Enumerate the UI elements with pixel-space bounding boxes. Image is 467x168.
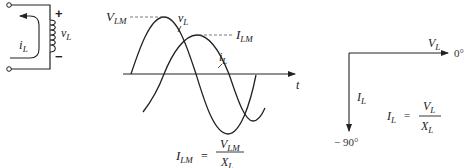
voltage-curve-label: vL [178, 11, 188, 27]
circuit-current-label: iL [19, 37, 28, 54]
minus-sign: − [55, 49, 63, 64]
current-angle-label: − 90° [334, 136, 358, 148]
waveform-plot: t VLM ILM vL iL ILM = VLM XL [106, 9, 300, 168]
current-curve-label: iL [219, 50, 227, 66]
plus-sign: + [55, 6, 63, 21]
svg-text:ILM: ILM [175, 148, 193, 165]
time-axis-label: t [296, 78, 300, 92]
svg-text:IL: IL [386, 109, 396, 125]
inductor-circuit: iL vL + − [7, 3, 72, 72]
inductor-ac-diagram: iL vL + − t VLM ILM vL iL ILM = VLM XL [0, 0, 467, 168]
peak-current-label: ILM [235, 27, 253, 44]
current-curve-leader [218, 64, 222, 68]
voltage-phasor-label: VL [428, 36, 440, 52]
svg-text:XL: XL [220, 155, 233, 168]
svg-text:=: = [404, 109, 410, 121]
svg-text:=: = [201, 149, 208, 163]
voltage-angle-label: 0° [454, 47, 464, 59]
svg-text:VLM: VLM [220, 137, 240, 153]
peak-current-formula: ILM = VLM XL [175, 137, 244, 168]
phasor-diagram: VL 0° IL − 90° IL = VL XL [334, 36, 464, 148]
top-terminal-icon [7, 3, 12, 8]
peak-voltage-label: VLM [106, 9, 127, 26]
svg-text:VL: VL [423, 99, 435, 115]
current-phasor-label: IL [356, 90, 366, 106]
circuit-voltage-label: vL [61, 26, 71, 42]
bottom-terminal-icon [7, 67, 12, 72]
top-wire [11, 5, 50, 20]
svg-text:XL: XL [420, 119, 433, 135]
bottom-wire [11, 52, 50, 69]
current-formula: IL = VL XL [386, 99, 441, 135]
inductor-coil-icon [50, 20, 55, 52]
